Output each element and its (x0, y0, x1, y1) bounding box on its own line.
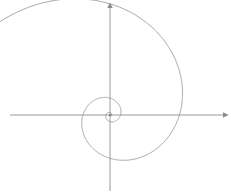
x-axis-arrow-icon (223, 112, 229, 117)
origin-point (109, 114, 111, 116)
logarithmic-spiral-curve (0, 0, 183, 160)
plot-canvas (0, 0, 231, 192)
spiral-figure (0, 0, 231, 192)
